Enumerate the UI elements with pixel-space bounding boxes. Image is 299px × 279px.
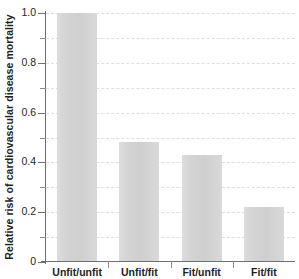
y-axis-minor-tick	[40, 38, 46, 39]
y-axis-tick	[38, 262, 46, 263]
y-axis-tick-label: 0	[0, 255, 36, 267]
x-axis-tick-label: Unfit/unfit	[46, 266, 108, 278]
y-axis-tick-label: 0.2	[0, 205, 36, 217]
y-axis-tick-label: 0.4	[0, 155, 36, 167]
y-axis-tick-label: 0.8	[0, 56, 36, 68]
bar	[119, 142, 159, 262]
y-axis-tick	[38, 162, 46, 163]
y-axis-minor-tick	[40, 237, 46, 238]
x-axis-line	[41, 261, 295, 262]
y-axis-tick	[38, 63, 46, 64]
bar	[57, 13, 97, 262]
y-axis-title: Relative risk of cardiovascular disease …	[3, 14, 15, 260]
bar	[244, 207, 284, 262]
y-axis-tick	[38, 113, 46, 114]
x-axis-tick-label: Fit/unfit	[171, 266, 233, 278]
plot-area	[46, 13, 295, 262]
y-axis-minor-tick	[40, 138, 46, 139]
y-axis-title-container: Relative risk of cardiovascular disease …	[0, 0, 18, 279]
y-axis-minor-tick	[40, 187, 46, 188]
bar	[182, 155, 222, 262]
bar-chart-figure: Relative risk of cardiovascular disease …	[0, 0, 299, 279]
y-axis-tick	[38, 13, 46, 14]
y-axis-tick	[38, 212, 46, 213]
y-axis-minor-tick	[40, 88, 46, 89]
x-axis-tick-label: Unfit/fit	[108, 266, 170, 278]
y-axis-tick-label: 1.0	[0, 6, 36, 18]
y-axis-tick-label: 0.6	[0, 106, 36, 118]
x-axis-tick-label: Fit/fit	[233, 266, 295, 278]
